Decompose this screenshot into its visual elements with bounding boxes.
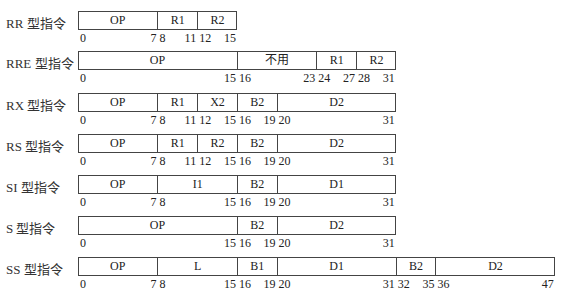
bit-start-label: 0 <box>80 72 86 85</box>
bit-end-label: 23 <box>303 72 315 85</box>
row-label: RRE 型指令 <box>6 53 74 72</box>
bit-start-label: 8 <box>159 196 165 209</box>
bit-end-label: 7 <box>150 155 156 168</box>
field-r2: R2 <box>197 135 237 152</box>
instruction-row: SS 型指令OPLB1D1B2D2078151619203132353647 <box>0 257 562 297</box>
instruction-row: RX 型指令OPR1X2B2D207811121516192031 <box>0 93 562 133</box>
bit-start-label: 8 <box>159 155 165 168</box>
bit-start-label: 8 <box>159 32 165 45</box>
bit-start-label: 16 <box>239 114 251 127</box>
bit-end-label: 31 <box>383 114 395 127</box>
bit-end-label: 31 <box>383 155 395 168</box>
bit-start-label: 0 <box>80 278 86 291</box>
bit-start-label: 8 <box>159 278 165 291</box>
row-label: RX 型指令 <box>6 95 66 114</box>
field-r1: R1 <box>157 94 197 111</box>
field-op: OP <box>78 176 157 193</box>
bit-end-label: 31 <box>383 72 395 85</box>
field-d2: D2 <box>277 135 396 152</box>
field-x2: X2 <box>197 94 237 111</box>
field-b2: B2 <box>237 94 277 111</box>
bit-end-label: 15 <box>224 196 236 209</box>
bit-end-label: 15 <box>224 114 236 127</box>
bit-start-label: 20 <box>279 114 291 127</box>
field-不用: 不用 <box>237 52 316 69</box>
bit-start-label: 0 <box>80 114 86 127</box>
bit-start-label: 0 <box>80 32 86 45</box>
bit-start-label: 20 <box>279 196 291 209</box>
instruction-box: OPB2D2 <box>78 216 396 235</box>
bit-start-label: 12 <box>199 155 211 168</box>
bit-end-label: 7 <box>150 196 156 209</box>
bit-start-label: 12 <box>199 114 211 127</box>
field-b2: B2 <box>237 217 277 234</box>
bit-end-label: 15 <box>224 32 236 45</box>
field-b2: B2 <box>396 258 436 275</box>
bit-end-label: 19 <box>264 278 276 291</box>
instruction-row: RR 型指令OPR1R2078111215 <box>0 11 562 51</box>
bit-end-label: 7 <box>150 32 156 45</box>
instruction-row: S 型指令OPB2D201516192031 <box>0 216 562 256</box>
field-d2: D2 <box>435 258 554 275</box>
instruction-row: RRE 型指令OP不用R1R2015162324272831 <box>0 51 562 91</box>
field-b2: B2 <box>237 176 277 193</box>
bit-start-label: 32 <box>398 278 410 291</box>
field-l: L <box>157 258 236 275</box>
instruction-row: RS 型指令OPR1R2B2D207811121516192031 <box>0 134 562 174</box>
field-r2: R2 <box>197 12 237 29</box>
instruction-box: OPR1X2B2D2 <box>78 93 396 112</box>
bit-end-label: 47 <box>542 278 554 291</box>
field-d2: D2 <box>277 94 396 111</box>
row-label: SI 型指令 <box>6 177 60 196</box>
bit-end-label: 11 <box>185 114 197 127</box>
field-r1: R1 <box>316 52 356 69</box>
row-label: RS 型指令 <box>6 136 64 155</box>
field-b2: B2 <box>237 135 277 152</box>
bit-end-label: 31 <box>383 278 395 291</box>
field-r2: R2 <box>356 52 396 69</box>
bit-start-label: 8 <box>159 114 165 127</box>
bit-end-label: 15 <box>224 278 236 291</box>
bit-end-label: 7 <box>150 278 156 291</box>
bit-end-label: 7 <box>150 114 156 127</box>
field-op: OP <box>78 258 157 275</box>
bit-start-label: 16 <box>239 278 251 291</box>
field-d1: D1 <box>277 258 396 275</box>
bit-end-label: 11 <box>185 32 197 45</box>
field-op: OP <box>78 12 157 29</box>
bit-start-label: 20 <box>279 237 291 250</box>
field-r1: R1 <box>157 12 197 29</box>
bit-end-label: 19 <box>264 237 276 250</box>
bit-end-label: 19 <box>264 114 276 127</box>
bit-start-label: 36 <box>437 278 449 291</box>
bit-end-label: 35 <box>422 278 434 291</box>
bit-end-label: 31 <box>383 196 395 209</box>
bit-start-label: 24 <box>318 72 330 85</box>
field-op: OP <box>78 94 157 111</box>
bit-end-label: 15 <box>224 72 236 85</box>
bit-start-label: 20 <box>279 155 291 168</box>
field-op: OP <box>78 52 237 69</box>
bit-start-label: 20 <box>279 278 291 291</box>
bit-start-label: 16 <box>239 196 251 209</box>
bit-end-label: 15 <box>224 237 236 250</box>
field-r1: R1 <box>157 135 197 152</box>
row-label: RR 型指令 <box>6 13 66 32</box>
instruction-box: OPLB1D1B2D2 <box>78 257 555 276</box>
bit-start-label: 16 <box>239 72 251 85</box>
instruction-box: OPI1B2D1 <box>78 175 396 194</box>
bit-end-label: 19 <box>264 196 276 209</box>
field-op: OP <box>78 217 237 234</box>
field-d2: D2 <box>277 217 396 234</box>
row-label: S 型指令 <box>6 218 55 237</box>
field-b1: B1 <box>237 258 277 275</box>
bit-end-label: 11 <box>185 155 197 168</box>
bit-start-label: 0 <box>80 155 86 168</box>
bit-start-label: 0 <box>80 196 86 209</box>
bit-end-label: 27 <box>343 72 355 85</box>
field-d1: D1 <box>277 176 396 193</box>
field-op: OP <box>78 135 157 152</box>
instruction-box: OPR1R2B2D2 <box>78 134 396 153</box>
bit-end-label: 19 <box>264 155 276 168</box>
instruction-box: OP不用R1R2 <box>78 51 396 70</box>
